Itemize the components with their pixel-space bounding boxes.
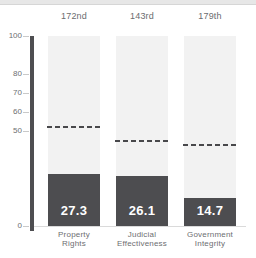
- world-average-dashed-line: [183, 144, 237, 146]
- bar-value-label: 14.7: [184, 203, 236, 218]
- y-axis-line: [30, 36, 34, 231]
- y-tick-mark: [23, 112, 29, 113]
- value-bar: 26.1: [116, 176, 168, 226]
- category-label-line: Judicial: [107, 230, 177, 239]
- y-tick-label: 0: [0, 221, 22, 230]
- rank-label: 143rd: [112, 11, 172, 21]
- bar-value-label: 26.1: [116, 203, 168, 218]
- y-tick-label: 50: [0, 126, 22, 135]
- category-label: GovernmentIntegrity: [175, 230, 245, 248]
- y-tick-mark: [23, 131, 29, 132]
- value-bar: 14.7: [184, 198, 236, 226]
- value-bar: 27.3: [48, 174, 100, 226]
- y-tick-mark: [23, 74, 29, 75]
- y-tick-mark: [23, 93, 29, 94]
- category-label: JudicialEffectiveness: [107, 230, 177, 248]
- y-tick-mark: [23, 36, 29, 37]
- rank-label: 172nd: [44, 11, 104, 21]
- rank-label: 179th: [180, 11, 240, 21]
- screenshot-root: 100807060500172nd27.3PropertyRights143rd…: [0, 0, 256, 258]
- world-average-dashed-line: [115, 140, 169, 142]
- category-label-line: Integrity: [175, 239, 245, 248]
- y-tick-label: 100: [0, 31, 22, 40]
- category-label-line: Government: [175, 230, 245, 239]
- category-label-line: Rights: [39, 239, 109, 248]
- category-label-line: Effectiveness: [107, 239, 177, 248]
- world-average-dashed-line: [47, 126, 101, 128]
- category-label: PropertyRights: [39, 230, 109, 248]
- category-label-line: Property: [39, 230, 109, 239]
- bar-chart: 100807060500172nd27.3PropertyRights143rd…: [0, 0, 256, 258]
- bar-value-label: 27.3: [48, 203, 100, 218]
- x-axis-baseline: [34, 226, 246, 227]
- y-tick-label: 60: [0, 107, 22, 116]
- y-tick-label: 70: [0, 88, 22, 97]
- y-tick-mark: [23, 226, 29, 227]
- y-tick-label: 80: [0, 69, 22, 78]
